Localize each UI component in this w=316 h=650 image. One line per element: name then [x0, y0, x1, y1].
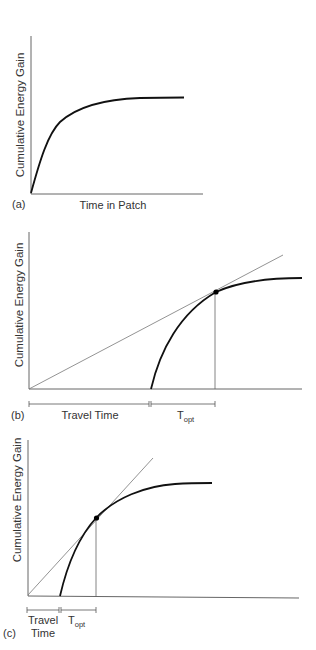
- panel-b-y-label: Cumulative Energy Gain: [13, 243, 25, 368]
- panel-c: Cumulative Energy Gain (c) Travel Time T…: [3, 438, 299, 639]
- panel-c-tag: (c): [3, 627, 16, 639]
- panel-b-topt-label: Topt: [177, 409, 195, 424]
- panel-c-x-axis: [28, 596, 299, 598]
- panel-b-travel-time-bracket: [29, 401, 149, 407]
- panel-c-topt-bracket: [61, 607, 96, 613]
- panel-c-optimal-point: [94, 515, 99, 520]
- panel-a: Cumulative Energy Gain (a) Time in Patch: [12, 36, 203, 211]
- panel-c-gain-curve: [60, 483, 212, 596]
- panel-c-travel-label-line2: Time: [31, 627, 55, 639]
- panel-b-optimal-point: [213, 289, 218, 294]
- panel-b-travel-time-label: Travel Time: [61, 409, 118, 421]
- panel-c-travel-time-bracket: [27, 607, 59, 613]
- panel-a-gain-curve: [31, 98, 184, 194]
- panel-b: Cumulative Energy Gain (b) Travel Time T…: [11, 232, 302, 424]
- panel-c-tangent-line: [28, 458, 153, 595]
- panel-c-travel-label-line1: Travel: [28, 614, 58, 626]
- panel-c-topt-label: Topt: [68, 614, 86, 629]
- panel-b-tag: (b): [11, 409, 24, 421]
- panel-b-gain-curve: [151, 278, 302, 389]
- panel-a-x-label: Time in Patch: [80, 199, 147, 211]
- panel-b-topt-bracket: [151, 401, 215, 407]
- panel-a-y-label: Cumulative Energy Gain: [14, 53, 26, 178]
- panel-c-y-label: Cumulative Energy Gain: [11, 438, 23, 563]
- panel-a-tag: (a): [12, 198, 25, 210]
- marginal-value-theorem-figure: Cumulative Energy Gain (a) Time in Patch…: [0, 0, 316, 650]
